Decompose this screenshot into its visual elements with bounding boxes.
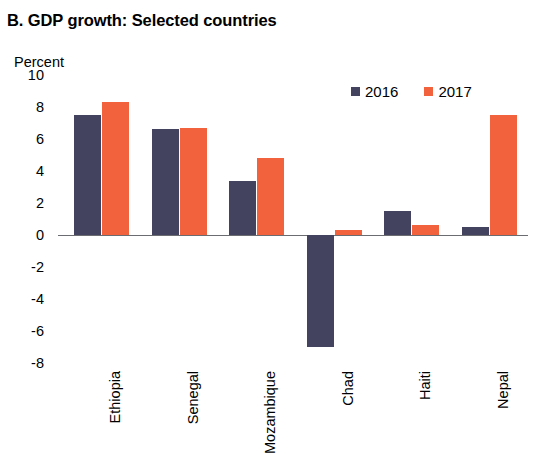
x-tick-label-chad: Chad	[340, 371, 356, 406]
chart-title: B. GDP growth: Selected countries	[7, 11, 277, 30]
gdp-growth-chart: B. GDP growth: Selected countries Percen…	[0, 0, 534, 462]
y-tick-label: -6	[0, 324, 44, 339]
bar-mozambique-2016	[229, 181, 256, 235]
y-tick-label: 8	[0, 100, 44, 115]
y-tick-label: 10	[0, 68, 44, 83]
y-tick-label: 0	[0, 228, 44, 243]
bar-chad-2016	[307, 235, 334, 347]
y-tick-label: 2	[0, 196, 44, 211]
bar-chad-2017	[335, 230, 362, 235]
bar-nepal-2017	[490, 115, 517, 235]
bar-nepal-2016	[462, 227, 489, 235]
bar-mozambique-2017	[257, 158, 284, 235]
y-tick-label: 6	[0, 132, 44, 147]
bar-ethiopia-2017	[102, 102, 129, 235]
x-tick-label-mozambique: Mozambique	[262, 371, 278, 454]
plot-area	[60, 75, 526, 363]
bar-senegal-2017	[180, 128, 207, 235]
zero-axis-line	[58, 235, 528, 236]
y-tick-label: 4	[0, 164, 44, 179]
bar-senegal-2016	[152, 129, 179, 235]
x-tick-label-haiti: Haiti	[417, 371, 433, 400]
y-tick-label: -4	[0, 292, 44, 307]
y-tick-label: -2	[0, 260, 44, 275]
x-tick-label-senegal: Senegal	[185, 371, 201, 424]
y-tick-label: -8	[0, 356, 44, 371]
bar-haiti-2016	[384, 211, 411, 235]
x-tick-label-ethiopia: Ethiopia	[107, 371, 123, 423]
bar-haiti-2017	[412, 225, 439, 235]
bar-ethiopia-2016	[74, 115, 101, 235]
x-tick-label-nepal: Nepal	[495, 371, 511, 409]
